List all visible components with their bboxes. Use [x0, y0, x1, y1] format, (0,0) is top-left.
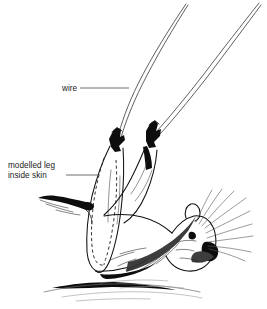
- near-hind-leg: [87, 127, 125, 272]
- illustration-figure: wire modelled leg inside skin: [0, 0, 267, 309]
- head: [166, 189, 253, 271]
- annotation-modelled-leg: modelled leg inside skin: [8, 161, 98, 180]
- label-wire-text: wire: [61, 84, 78, 93]
- tail: [38, 196, 94, 224]
- support-wires-group: [117, 3, 261, 141]
- label-modelled-leg-line2: inside skin: [8, 171, 47, 180]
- ground-shadow: [44, 280, 202, 301]
- illustration-canvas: wire modelled leg inside skin: [0, 0, 267, 309]
- wire-right: [156, 3, 261, 134]
- annotation-wire: wire: [61, 84, 129, 93]
- wire-left: [117, 4, 188, 141]
- label-modelled-leg-line1: modelled leg: [8, 161, 55, 170]
